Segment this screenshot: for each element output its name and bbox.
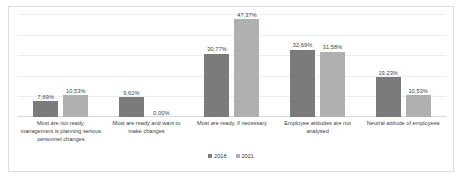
bar[interactable] <box>33 101 58 117</box>
category-label: Neutral attitude of employees <box>360 119 446 143</box>
bar-slot: 47,37% <box>234 14 259 117</box>
chart-legend: 20182021 <box>9 153 453 159</box>
bar-slot: 32,69% <box>290 14 315 117</box>
bar-value-label: 10,53% <box>53 88 99 94</box>
bar-group: 19,23%10,53% <box>360 14 446 117</box>
bar-slot: 0,00% <box>149 14 174 117</box>
bar-slot: 30,77% <box>204 14 229 117</box>
bar-value-label: 19,23% <box>365 70 411 76</box>
bar[interactable] <box>320 52 345 117</box>
bar-slot: 10,53% <box>406 14 431 117</box>
bar-slot: 31,58% <box>320 14 345 117</box>
category-label: Most are ready and want to make changes <box>104 119 190 143</box>
legend-swatch-icon <box>236 154 240 158</box>
chart-container: 7,69%10,53%9,62%0,00%30,77%47,37%32,69%3… <box>8 6 454 172</box>
bar-group: 32,69%31,58% <box>275 14 361 117</box>
bar-groups: 7,69%10,53%9,62%0,00%30,77%47,37%32,69%3… <box>18 14 446 117</box>
legend-item[interactable]: 2018 <box>208 153 226 159</box>
bar-value-label: 30,77% <box>194 46 240 52</box>
bar-value-label: 9,62% <box>108 90 154 96</box>
bar[interactable] <box>290 50 315 117</box>
legend-label: 2018 <box>214 153 226 159</box>
bar-value-label: 7,69% <box>23 94 69 100</box>
bar-group: 30,77%47,37% <box>189 14 275 117</box>
legend-label: 2021 <box>242 153 254 159</box>
bar-value-label: 47,37% <box>224 12 270 18</box>
bar[interactable] <box>63 95 88 117</box>
bar-slot: 9,62% <box>119 14 144 117</box>
bar[interactable] <box>406 95 431 117</box>
category-labels: Most are not ready, management is planni… <box>18 119 446 143</box>
bar[interactable] <box>376 77 401 117</box>
bar-value-label: 31,58% <box>310 44 356 50</box>
category-label: Employee attitudes are not analysed <box>275 119 361 143</box>
bar-value-label: 0,00% <box>138 110 184 116</box>
bar[interactable] <box>234 19 259 117</box>
bar[interactable] <box>204 54 229 117</box>
bar-slot: 7,69% <box>33 14 58 117</box>
bar-value-label: 10,53% <box>395 88 441 94</box>
legend-item[interactable]: 2021 <box>236 153 254 159</box>
legend-swatch-icon <box>208 154 212 158</box>
bar-group: 9,62%0,00% <box>104 14 190 117</box>
bar-slot: 10,53% <box>63 14 88 117</box>
bar-group: 7,69%10,53% <box>18 14 104 117</box>
category-label: Most are not ready, management is planni… <box>18 119 104 143</box>
plot-area: 7,69%10,53%9,62%0,00%30,77%47,37%32,69%3… <box>18 14 446 117</box>
category-label: Most are ready, if necessary <box>189 119 275 143</box>
bar-slot: 19,23% <box>376 14 401 117</box>
